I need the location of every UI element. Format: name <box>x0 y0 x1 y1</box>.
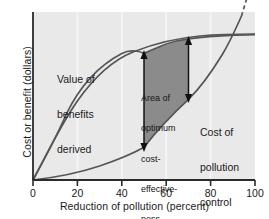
optimum-label-line-5: ness <box>141 214 177 219</box>
benefits-label-line-1: Value of <box>57 74 95 86</box>
benefits-label-line-3: derived <box>57 144 95 156</box>
x-tick-20: 20 <box>65 187 89 199</box>
x-tick-0: 0 <box>21 187 45 199</box>
optimum-region-label: Area of optimum cost- effective- ness <box>141 73 177 219</box>
optimum-label-line-2: optimum <box>141 123 177 133</box>
optimum-label-line-1: Area of <box>141 93 177 103</box>
cost-label-line-2: pollution <box>200 162 239 174</box>
chart-figure: Cost or benefit (dollars) 0 20 40 60 80 … <box>0 0 269 219</box>
benefits-label: Value of benefits derived <box>57 50 95 179</box>
cost-label-line-1: Cost of <box>200 127 239 139</box>
benefits-label-line-2: benefits <box>57 109 95 121</box>
x-tick-100: 100 <box>243 187 267 199</box>
y-axis-title: Cost or benefit (dollars) <box>22 27 34 177</box>
x-tick-40: 40 <box>110 187 134 199</box>
optimum-label-line-3: cost- <box>141 154 177 164</box>
optimum-label-line-4: effective- <box>141 184 177 194</box>
cost-label: Cost of pollution control <box>200 103 239 219</box>
cost-label-line-3: control <box>200 197 239 209</box>
